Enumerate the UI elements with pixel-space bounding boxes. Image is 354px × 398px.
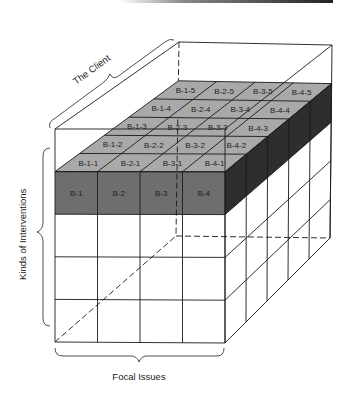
top-cell-label: B-1-4 <box>151 104 171 113</box>
top-cell-label: B-2-1 <box>121 159 141 168</box>
front-row-line <box>55 299 225 300</box>
top-cell-label: B-4-2 <box>227 141 247 150</box>
focal-issues-axis-label: Focal Issues <box>112 371 166 382</box>
interventions-brace <box>37 148 50 326</box>
top-cell-label: B-3-3 <box>208 123 228 132</box>
top-cell-label: B-2-3 <box>168 123 188 132</box>
front-cell-label: B-1 <box>70 189 83 198</box>
side-row-line <box>225 199 330 300</box>
front-row-line <box>55 342 225 343</box>
top-cell-label: B-2-2 <box>144 141 164 150</box>
client-axis-label: The Client <box>71 52 113 87</box>
front-cell-label: B-4 <box>198 189 211 198</box>
frame-top-back <box>179 42 332 45</box>
top-cell-label: B-4-4 <box>270 106 290 115</box>
interventions-axis-label: Kinds of Interventions <box>17 188 28 280</box>
top-cell-label: B-4-3 <box>248 124 268 133</box>
top-cell-label: B-2-4 <box>191 105 211 114</box>
focal-issues-brace <box>55 348 224 362</box>
side-row-line <box>225 238 330 343</box>
top-cell-label: B-4-1 <box>205 159 225 168</box>
top-cell-label: B-3-1 <box>163 159 183 168</box>
top-cell-label: B-1-3 <box>127 122 147 131</box>
top-cell-label: B-4-5 <box>292 88 312 97</box>
hidden-edge-bottom-left <box>55 236 176 342</box>
hidden-edge-bottom-back <box>176 236 330 238</box>
top-cell-label: B-3-5 <box>253 87 273 96</box>
front-cell-label: B-2 <box>113 189 126 198</box>
top-cell-label: B-1-5 <box>176 86 196 95</box>
top-cell-label: B-3-2 <box>185 141 205 150</box>
front-row-line <box>55 257 225 258</box>
hidden-edge-back-left-top <box>178 42 179 81</box>
top-cell-label: B-3-4 <box>230 105 250 114</box>
top-cell-label: B-1-1 <box>79 159 99 168</box>
front-cell-label: B-3 <box>155 189 168 198</box>
top-cell-label: B-1-2 <box>103 140 123 149</box>
top-cell-label: B-2-5 <box>214 87 234 96</box>
cube-diagram: B-1B-2B-3B-4B-1-1B-2-1B-3-1B-4-1B-1-2B-2… <box>0 0 354 398</box>
